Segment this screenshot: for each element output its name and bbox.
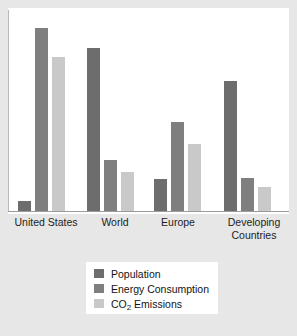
x-axis-tick-label: United States [2, 216, 90, 229]
x-axis-tick-label: Europe [144, 216, 212, 229]
y-axis-line [8, 10, 9, 212]
bar-group-world [85, 14, 145, 211]
legend-item-population: Population [86, 266, 218, 281]
bar-group-europe [152, 14, 212, 211]
legend-swatch-energy-icon [94, 284, 104, 293]
bar-co2-emissions [258, 187, 271, 211]
legend-item-co2-emissions: CO2 Emissions [86, 296, 218, 311]
bar-population [18, 201, 31, 211]
bar-energy-consumption [104, 160, 117, 211]
bar-energy-consumption [241, 178, 254, 211]
chart-legend: Population Energy Consumption CO2 Emissi… [86, 262, 218, 314]
legend-label-co2-emissions: CO2 Emissions [111, 298, 182, 310]
legend-swatch-co2-icon [94, 299, 104, 308]
x-axis-line [8, 211, 289, 212]
bar-chart-figure: United States World Europe Developing Co… [0, 0, 297, 336]
bar-co2-emissions [52, 57, 65, 211]
legend-item-energy-consumption: Energy Consumption [86, 281, 218, 296]
legend-label-energy-consumption: Energy Consumption [111, 283, 209, 295]
legend-swatch-population-icon [94, 269, 104, 278]
x-axis-tick-label: Developing Countries [214, 216, 294, 241]
bar-energy-consumption [35, 28, 48, 211]
bar-energy-consumption [171, 122, 184, 211]
bar-population [154, 179, 167, 211]
bar-population [224, 81, 237, 211]
x-axis-tick-label: World [81, 216, 149, 229]
bar-group-developing-countries [222, 14, 282, 211]
bar-co2-emissions [121, 172, 134, 211]
bar-co2-emissions [188, 144, 201, 211]
legend-label-population: Population [111, 268, 161, 280]
bar-population [87, 48, 100, 212]
bar-group-united-states [16, 14, 76, 211]
